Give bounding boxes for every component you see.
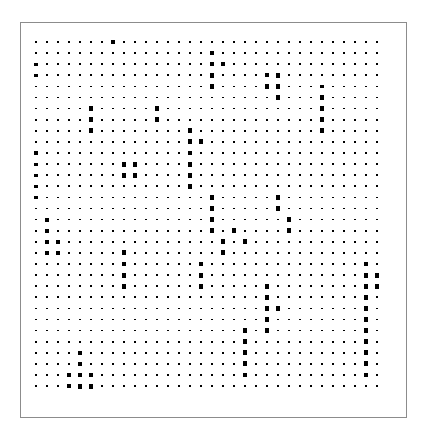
matrix-cell — [299, 141, 301, 143]
matrix-cell — [57, 308, 59, 310]
matrix-cell — [321, 241, 323, 243]
matrix-cell — [78, 373, 83, 378]
matrix-cell — [222, 219, 224, 221]
matrix-cell — [321, 252, 323, 254]
matrix-cell — [376, 108, 378, 110]
matrix-cell — [332, 363, 334, 365]
matrix-cell — [156, 208, 158, 210]
matrix-cell — [277, 352, 279, 354]
matrix-cell — [310, 241, 312, 243]
matrix-cell — [112, 74, 114, 76]
matrix-cell — [122, 273, 127, 278]
matrix-cell — [79, 274, 81, 276]
matrix-cell — [200, 163, 202, 165]
matrix-cell — [45, 251, 49, 255]
matrix-cell — [167, 308, 169, 310]
matrix-cell — [354, 374, 356, 376]
matrix-cell — [354, 152, 356, 154]
matrix-cell — [68, 74, 70, 76]
matrix-cell — [68, 274, 70, 276]
matrix-cell — [354, 308, 356, 310]
matrix-cell — [178, 252, 180, 254]
matrix-cell — [189, 363, 191, 365]
matrix-cell — [155, 106, 160, 111]
matrix-cell — [233, 86, 235, 88]
matrix-cell — [364, 373, 369, 378]
matrix-cell — [310, 319, 312, 321]
matrix-cell — [266, 385, 268, 387]
matrix-cell — [343, 341, 345, 343]
matrix-cell — [90, 330, 92, 332]
matrix-cell — [134, 52, 136, 54]
matrix-cell — [210, 228, 215, 233]
matrix-cell — [211, 330, 213, 332]
matrix-cell — [233, 63, 235, 65]
matrix-cell — [310, 174, 312, 176]
matrix-cell — [354, 119, 356, 121]
matrix-cell — [244, 52, 246, 54]
matrix-cell — [266, 130, 268, 132]
matrix-cell — [57, 152, 59, 154]
matrix-cell — [310, 252, 312, 254]
matrix-cell — [123, 141, 125, 143]
matrix-cell — [210, 217, 215, 222]
matrix-cell — [46, 319, 48, 321]
matrix-cell — [123, 219, 125, 221]
matrix-cell — [233, 52, 235, 54]
matrix-cell — [145, 241, 147, 243]
matrix-cell — [200, 241, 202, 243]
matrix-cell — [211, 274, 213, 276]
matrix-cell — [277, 319, 279, 321]
matrix-cell — [46, 308, 48, 310]
matrix-cell — [321, 52, 323, 54]
matrix-cell — [255, 341, 257, 343]
matrix-cell — [145, 86, 147, 88]
matrix-cell — [200, 341, 202, 343]
matrix-cell — [57, 341, 59, 343]
matrix-cell — [222, 174, 224, 176]
matrix-cell — [68, 185, 70, 187]
matrix-cell — [156, 374, 158, 376]
matrix-cell — [332, 263, 334, 265]
matrix-cell — [123, 52, 125, 54]
matrix-cell — [112, 174, 114, 176]
matrix-cell — [233, 319, 235, 321]
matrix-cell — [277, 141, 279, 143]
matrix-cell — [46, 263, 48, 265]
matrix-cell — [365, 52, 367, 54]
matrix-cell — [57, 119, 59, 121]
matrix-cell — [123, 319, 125, 321]
matrix-cell — [189, 230, 191, 232]
matrix-cell — [299, 86, 301, 88]
matrix-cell — [376, 263, 378, 265]
matrix-cell — [277, 330, 279, 332]
matrix-cell — [222, 385, 224, 387]
matrix-cell — [46, 174, 48, 176]
matrix-cell — [101, 274, 103, 276]
matrix-cell — [156, 252, 158, 254]
matrix-cell — [188, 162, 193, 167]
matrix-cell — [288, 319, 290, 321]
matrix-cell — [46, 41, 48, 43]
matrix-cell — [46, 152, 48, 154]
matrix-cell — [299, 63, 301, 65]
matrix-cell — [112, 141, 114, 143]
matrix-cell — [266, 197, 268, 199]
matrix-cell — [288, 374, 290, 376]
matrix-cell — [156, 174, 158, 176]
matrix-cell — [90, 208, 92, 210]
matrix-cell — [57, 385, 59, 387]
matrix-cell — [134, 86, 136, 88]
matrix-cell — [310, 130, 312, 132]
matrix-cell — [156, 363, 158, 365]
matrix-cell — [145, 208, 147, 210]
matrix-cell — [134, 119, 136, 121]
matrix-cell — [112, 185, 114, 187]
matrix-cell — [68, 141, 70, 143]
matrix-cell — [310, 285, 312, 287]
matrix-cell — [68, 296, 70, 298]
matrix-cell — [178, 130, 180, 132]
matrix-cell — [310, 152, 312, 154]
matrix-cell — [354, 86, 356, 88]
matrix-cell — [156, 63, 158, 65]
